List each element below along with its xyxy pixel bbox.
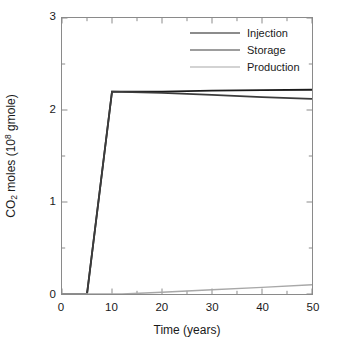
legend-line-swatch [190, 45, 240, 55]
y-tick-label: 2 [34, 104, 56, 116]
legend-item-storage[interactable]: Storage [190, 41, 308, 58]
legend-item-label: Injection [247, 27, 288, 39]
legend-swatch-line [190, 66, 240, 67]
y-axis-title-prefix: CO [4, 200, 18, 218]
legend-item-injection[interactable]: Injection [190, 24, 308, 41]
y-axis-title-subscript: 2 [9, 195, 19, 200]
y-axis-title: CO2 moles (108 gmole) [1, 94, 20, 218]
series-line-storage [62, 92, 312, 294]
legend-line-swatch [190, 28, 240, 38]
x-axis-tick-labels: 01020304050 [61, 302, 313, 318]
y-axis-tick-labels: 0123 [30, 17, 56, 295]
y-tick-label: 3 [34, 11, 56, 23]
chart-legend: InjectionStorageProduction [190, 24, 308, 75]
y-axis-title-suffix: gmole) [4, 94, 18, 134]
legend-swatch-line [190, 49, 240, 50]
legend-line-swatch [190, 62, 240, 72]
chart-figure: CO2 moles (108 gmole) 0123 01020304050 T… [0, 0, 343, 349]
x-axis-title: Time (years) [61, 323, 313, 337]
y-tick-label: 0 [34, 289, 56, 301]
data-series-layer [62, 90, 312, 294]
x-tick-label: 50 [298, 302, 328, 314]
x-tick-label: 0 [46, 302, 76, 314]
y-tick-label: 1 [34, 196, 56, 208]
y-axis-title-mid: moles (10 [4, 139, 18, 195]
legend-item-label: Production [247, 61, 300, 73]
x-tick-label: 20 [147, 302, 177, 314]
legend-item-label: Storage [247, 44, 286, 56]
y-axis-title-container: CO2 moles (108 gmole) [0, 17, 22, 295]
x-tick-label: 30 [197, 302, 227, 314]
y-axis-title-superscript: 8 [3, 134, 13, 139]
x-tick-label: 40 [248, 302, 278, 314]
legend-swatch-line [190, 32, 240, 33]
legend-item-production[interactable]: Production [190, 58, 308, 75]
x-tick-label: 10 [96, 302, 126, 314]
